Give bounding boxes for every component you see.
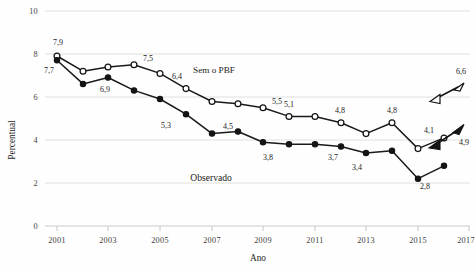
projection-arrow-head-right-hollow-icon	[454, 83, 464, 91]
series-sem-o-pbf-polyline	[57, 56, 444, 149]
x-tick-label-2013: 2013	[357, 236, 375, 245]
data-point-2008-sem-pbf	[235, 101, 241, 107]
series-observado	[54, 58, 446, 182]
y-tick-label-8: 8	[34, 50, 38, 59]
data-point-2006-observado	[183, 112, 188, 117]
x-axis-tick-labels: 2001 2003 2005 2007 2009 2011 2013 2015 …	[48, 236, 475, 245]
x-tick-label-2017: 2017	[457, 236, 475, 245]
y-axis-tick-labels: 10 8 6 4 2 0	[29, 7, 38, 231]
data-point-2002-observado	[80, 81, 85, 86]
y-axis-title: Percentual	[7, 120, 17, 160]
data-point-2010-sem-pbf	[286, 114, 292, 120]
data-label-2010-observado: 3,8	[263, 153, 273, 162]
data-label-2016-sem-pbf: 4,1	[424, 126, 434, 135]
x-tick-label-2015: 2015	[409, 236, 427, 245]
data-labels-sem-o-pbf: 7,9 7,5 6,4 5,5 5,1 4,8 4,8 4,1 6,6	[53, 38, 466, 135]
data-point-2007-observado	[209, 131, 214, 136]
data-label-2010-sem-pbf: 5,1	[284, 100, 294, 109]
data-label-2013-observado: 3,4	[352, 163, 362, 172]
data-label-2003-observado: 6,9	[100, 85, 110, 94]
data-point-2002-sem-pbf	[80, 68, 86, 74]
data-label-2001-observado: 7,7	[44, 66, 54, 75]
x-tick-label-2011: 2011	[306, 236, 323, 245]
x-tick-label-2003: 2003	[99, 236, 117, 245]
projection-arrow-sem-o-pbf	[430, 83, 464, 104]
data-point-2009-observado	[260, 140, 265, 145]
data-label-2004-sem-pbf: 7,5	[143, 54, 153, 63]
y-tick-label-4: 4	[34, 136, 38, 145]
series-annotation-sem-o-pbf: Sem o PBF	[193, 65, 235, 75]
x-tick-label-2001: 2001	[48, 236, 66, 245]
data-point-2005-observado	[157, 96, 162, 101]
y-tick-label-2: 2	[34, 179, 38, 188]
data-point-2014-sem-pbf	[389, 120, 395, 126]
data-label-2017-sem-pbf: 6,6	[456, 67, 466, 76]
data-point-2007-sem-pbf	[209, 99, 215, 105]
x-tick-label-2009: 2009	[254, 236, 272, 245]
data-point-2016-observado	[441, 163, 446, 168]
gridlines	[45, 11, 470, 226]
data-point-2008-observado	[235, 129, 240, 134]
projection-arrow-head-left-hollow-icon	[430, 95, 440, 104]
data-label-2012-sem-pbf: 4,8	[335, 106, 345, 115]
data-point-2003-observado	[105, 75, 110, 80]
y-tick-label-0: 0	[34, 222, 38, 231]
data-point-2004-observado	[131, 88, 136, 93]
data-label-2017-observado: 4,9	[459, 138, 469, 147]
data-point-2015-sem-pbf	[415, 146, 421, 152]
data-point-2006-sem-pbf	[183, 86, 189, 92]
x-tick-marks	[57, 226, 469, 231]
data-point-2003-sem-pbf	[105, 64, 111, 70]
data-label-2016-observado: 2,8	[420, 182, 430, 191]
x-tick-label-2007: 2007	[203, 236, 221, 245]
data-label-2012-observado: 3,7	[328, 153, 338, 162]
data-point-2009-sem-pbf	[260, 105, 266, 111]
data-point-2005-sem-pbf	[157, 71, 163, 77]
data-label-2001-sem-pbf: 7,9	[53, 38, 63, 47]
x-tick-label-2005: 2005	[151, 236, 169, 245]
data-point-2011-observado	[312, 142, 317, 147]
data-label-2006-observado: 5,3	[161, 121, 171, 130]
x-axis-title: Ano	[250, 253, 266, 263]
series-observado-polyline	[57, 60, 444, 178]
y-tick-label-6: 6	[34, 93, 38, 102]
data-point-2012-sem-pbf	[338, 120, 344, 126]
projection-arrow-head-right-filled-icon	[453, 125, 464, 135]
data-point-2004-sem-pbf	[131, 62, 137, 68]
data-label-2006-sem-pbf: 6,4	[172, 72, 182, 81]
data-point-2001-observado	[54, 58, 59, 63]
data-point-2013-sem-pbf	[363, 131, 369, 137]
line-chart-plot: 10 8 6 4 2 0 2001 2003 2005 2007 2009 20…	[0, 0, 476, 268]
data-label-2014-sem-pbf: 4,8	[387, 106, 397, 115]
data-point-2013-observado	[363, 150, 368, 155]
data-point-2010-observado	[286, 142, 291, 147]
data-point-2011-sem-pbf	[312, 114, 318, 120]
chart-container: 10 8 6 4 2 0 2001 2003 2005 2007 2009 20…	[0, 0, 476, 268]
data-point-2012-observado	[338, 144, 343, 149]
series-annotation-observado: Observado	[190, 172, 232, 183]
data-label-2008-observado: 4,5	[223, 122, 233, 131]
data-labels-observado: 7,7 6,9 5,3 4,5 3,8 3,7 3,4 2,8 4,9	[44, 66, 469, 191]
data-label-2009-sem-pbf: 5,5	[272, 97, 282, 106]
data-point-2014-observado	[389, 148, 394, 153]
y-tick-label-10: 10	[29, 7, 38, 16]
data-point-2015-observado	[415, 176, 420, 181]
